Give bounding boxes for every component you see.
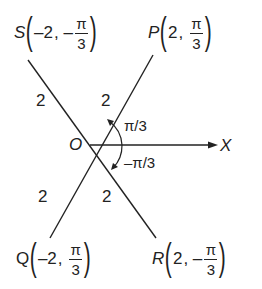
origin-label: O xyxy=(69,136,82,153)
point-theta-fraction: π 3 xyxy=(69,242,82,277)
frac-den: 3 xyxy=(77,36,85,51)
point-name: P xyxy=(148,23,159,43)
frac-bar xyxy=(69,259,82,260)
frac-bar xyxy=(204,259,217,260)
point-sign: – xyxy=(63,23,72,43)
segment-label-oq: 2 xyxy=(38,188,47,205)
point-theta-fraction: π 3 xyxy=(75,16,88,51)
line-s-r xyxy=(28,60,156,238)
point-name: R xyxy=(152,249,164,269)
point-r: 2 xyxy=(173,249,182,269)
point-name: Q xyxy=(16,249,29,269)
frac-den: 3 xyxy=(192,36,200,51)
point-r: –2 xyxy=(34,23,53,43)
point-sign: – xyxy=(193,249,202,269)
segment-label-os: 2 xyxy=(36,92,45,109)
frac-num: π xyxy=(76,16,86,31)
paren-open: ( xyxy=(165,238,172,276)
frac-num: π xyxy=(71,242,81,257)
frac-den: 3 xyxy=(207,262,215,277)
frac-den: 3 xyxy=(72,262,80,277)
paren-close: ) xyxy=(84,238,91,276)
point-q-label: Q ( –2, π 3 ) xyxy=(16,240,91,278)
axis-label-x: X xyxy=(220,137,231,154)
point-r-label: R ( 2, – π 3 ) xyxy=(152,240,226,278)
paren-open: ( xyxy=(160,12,167,50)
paren-open: ( xyxy=(26,12,33,50)
x-axis-arrowhead-icon xyxy=(208,142,218,149)
point-theta-fraction: π 3 xyxy=(190,16,203,51)
comma: , xyxy=(183,249,192,269)
point-r: 2 xyxy=(168,23,177,43)
point-p-label: P ( 2, π 3 ) xyxy=(148,14,212,52)
comma: , xyxy=(178,23,187,43)
paren-close: ) xyxy=(90,12,97,50)
paren-open: ( xyxy=(30,238,37,276)
angle-label-lower: –π/3 xyxy=(124,154,155,171)
frac-num: π xyxy=(191,16,201,31)
comma: , xyxy=(58,249,67,269)
segment-label-or: 2 xyxy=(102,188,111,205)
paren-close: ) xyxy=(205,12,212,50)
line-q-p xyxy=(50,55,153,238)
angle-label-upper: π/3 xyxy=(124,117,147,134)
paren-close: ) xyxy=(219,238,226,276)
point-r: –2 xyxy=(38,249,57,269)
frac-bar xyxy=(75,33,88,34)
point-name: S xyxy=(14,23,25,43)
segment-label-op: 2 xyxy=(101,92,110,109)
point-s-label: S ( –2, – π 3 ) xyxy=(14,14,97,52)
comma: , xyxy=(54,23,63,43)
frac-bar xyxy=(190,33,203,34)
point-theta-fraction: π 3 xyxy=(204,242,217,277)
frac-num: π xyxy=(206,242,216,257)
